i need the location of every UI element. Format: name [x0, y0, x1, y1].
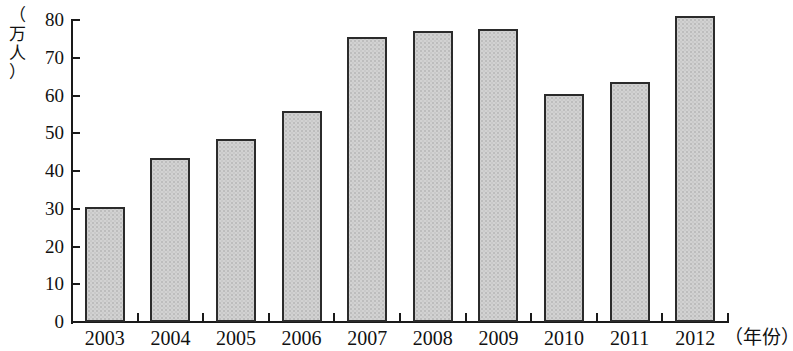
y-axis-tick-label: 80 — [30, 10, 64, 29]
bar-chart-figure: （ 万 人 ） 01020304050607080 20032004200520… — [0, 0, 793, 351]
x-axis-tick — [530, 313, 532, 322]
y-axis-tick-label: 30 — [30, 199, 64, 218]
y-axis-tick — [73, 19, 80, 21]
y-axis-tick-label: 10 — [30, 274, 64, 293]
y-axis-tick-label: 0 — [30, 312, 64, 331]
y-axis-unit-label: （ 万 人 ） — [2, 6, 32, 82]
y-axis-unit-char-0: （ — [2, 6, 32, 25]
x-axis-tick — [202, 313, 204, 322]
bar-2012 — [675, 16, 715, 322]
bar-2010 — [544, 94, 584, 322]
y-axis-tick — [73, 170, 80, 172]
x-axis-tick — [399, 313, 401, 322]
bar-2007 — [347, 37, 387, 322]
y-axis-tick-label: 50 — [30, 123, 64, 142]
x-axis-tick — [137, 313, 139, 322]
y-axis-unit-char-2: 人 — [2, 44, 32, 63]
x-axis-tick — [465, 313, 467, 322]
y-axis-tick — [73, 57, 80, 59]
y-axis-tick-label: 70 — [30, 48, 64, 67]
bar-2003 — [85, 207, 125, 322]
y-axis-tick — [73, 95, 80, 97]
y-axis-tick-label: 20 — [30, 237, 64, 256]
x-axis-tick — [661, 313, 663, 322]
y-axis-unit-char-3: ） — [2, 63, 32, 82]
y-axis-tick — [73, 283, 80, 285]
bar-2011 — [610, 82, 650, 322]
bar-2006 — [282, 111, 322, 322]
bar-2004 — [150, 158, 190, 322]
y-axis-tick — [73, 246, 80, 248]
y-axis-tick — [73, 208, 80, 210]
y-axis-tick-label: 40 — [30, 161, 64, 180]
y-axis-tick — [73, 321, 80, 323]
bar-2008 — [413, 31, 453, 322]
x-axis-tick — [268, 313, 270, 322]
y-axis-tick-label: 60 — [30, 86, 64, 105]
bar-2009 — [478, 29, 518, 322]
y-axis-tick — [73, 132, 80, 134]
y-axis-unit-char-1: 万 — [2, 25, 32, 44]
x-axis-unit-label: （年份） — [724, 327, 793, 349]
x-axis-tick — [333, 313, 335, 322]
bar-2005 — [216, 139, 256, 322]
x-axis-tick — [596, 313, 598, 322]
x-axis-tick — [727, 313, 729, 322]
